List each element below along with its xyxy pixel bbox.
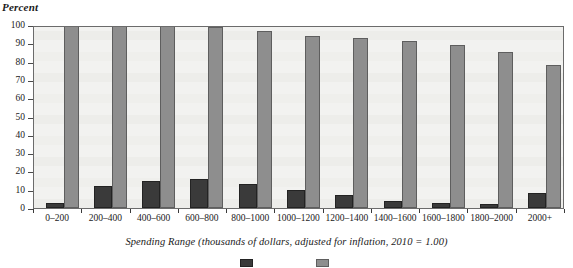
x-axis-tick [274,209,275,213]
x-axis-tick [371,209,372,213]
y-axis-tick [28,118,33,119]
x-axis-tick [323,209,324,213]
bar-series-2 [353,38,368,208]
x-axis-tick [130,209,131,213]
bar-series-1 [432,203,450,208]
y-axis-tick-label: 100 [0,21,25,31]
bar-series-2 [257,31,272,209]
y-axis-tick-label: 60 [0,94,25,104]
bar-series-2 [208,27,223,208]
y-axis-tick [28,63,33,64]
x-axis-tick [178,209,179,213]
y-axis-tick-label: 70 [0,76,25,86]
y-axis-tick-label: 50 [0,113,25,123]
bar-chart: Percent 1009080706050403020100 0–200200–… [0,0,573,268]
x-axis-tick-label: 1400–1600 [371,214,419,224]
x-axis-tick-label: 2000+ [516,214,564,224]
y-axis-tick-label: 0 [0,204,25,214]
y-axis-tick-label: 90 [0,39,25,49]
y-axis-tick-label: 40 [0,131,25,141]
bar-series-1 [384,201,402,208]
x-axis-tick-label: 400–600 [130,214,178,224]
y-axis-tick [28,172,33,173]
x-axis-tick-label: 200–400 [81,214,129,224]
chart-legend [0,259,573,267]
y-axis-tick-label: 20 [0,167,25,177]
bar-series-1 [528,193,546,208]
x-axis-tick [419,209,420,213]
legend-item [316,259,334,267]
x-axis-tick-label: 1600–1800 [419,214,467,224]
x-axis-tick-label: 0–200 [33,214,81,224]
legend-swatch [316,259,329,267]
bar-series-2 [498,52,513,208]
legend-swatch [240,259,253,267]
bar-series-1 [335,195,353,208]
y-axis-tick-label: 10 [0,186,25,196]
bar-series-2 [160,26,175,208]
y-axis-tick [28,191,33,192]
y-axis-tick [28,154,33,155]
x-axis-tick [516,209,517,213]
bar-series-1 [480,204,498,208]
x-axis-tick-label: 800–1000 [226,214,274,224]
y-axis-tick [28,81,33,82]
x-axis-tick [226,209,227,213]
bar-series-1 [142,181,160,208]
y-axis-title: Percent [2,1,38,13]
x-axis-tick [33,209,34,213]
bar-series-2 [305,36,320,208]
y-axis-tick [28,99,33,100]
x-axis-tick-label: 1200–1400 [323,214,371,224]
x-axis-tick [81,209,82,213]
x-axis-tick-label: 600–800 [178,214,226,224]
y-axis-tick [28,136,33,137]
x-axis-tick [564,209,565,213]
bars-layer [34,27,563,208]
y-axis-tick-label: 80 [0,58,25,68]
bar-series-2 [450,45,465,208]
bar-series-1 [190,179,208,208]
bar-series-1 [239,184,257,208]
plot-area [33,26,564,209]
y-axis-tick [28,44,33,45]
bar-series-2 [402,41,417,208]
bar-series-1 [287,190,305,208]
bar-series-2 [112,26,127,208]
x-axis-tick-label: 1000–1200 [274,214,322,224]
bar-series-1 [46,203,64,208]
x-axis-caption: Spending Range (thousands of dollars, ad… [0,236,573,247]
x-axis-tick-label: 1800–2000 [467,214,515,224]
bar-series-2 [64,26,79,208]
legend-item [240,259,258,267]
bar-series-1 [94,186,112,208]
x-axis-tick [467,209,468,213]
y-axis-tick-label: 30 [0,149,25,159]
bar-series-2 [546,65,561,208]
y-axis-tick [28,26,33,27]
